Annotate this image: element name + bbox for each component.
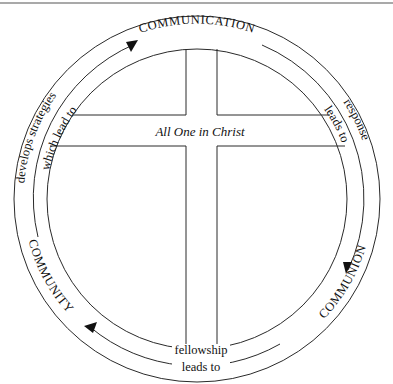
stage-communication-label: COMMUNICATION <box>137 13 257 36</box>
cross <box>50 49 345 349</box>
flow-arc-communication-to-communion <box>262 45 364 274</box>
connector-fellowship-leads-to-label: leads to <box>182 360 221 374</box>
connector-fellowship-label: fellowship <box>175 343 228 357</box>
arrow-head-icon <box>126 40 138 52</box>
cycle-diagram: All One in Christ COMMUNICATION COMMUNIO… <box>0 0 393 384</box>
outer-ring <box>14 16 380 382</box>
inner-ring <box>47 49 347 349</box>
stage-communication: COMMUNICATION <box>137 13 257 36</box>
center-label: All One in Christ <box>154 124 245 139</box>
